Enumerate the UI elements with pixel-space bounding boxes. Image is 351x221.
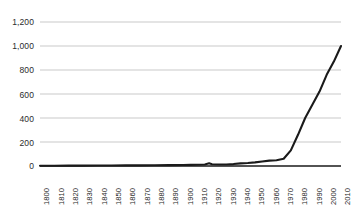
line-chart: 1,200 1,000 800 600 400 200 0 1800181018… [0, 0, 351, 221]
x-axis-tick-label: 1870 [144, 188, 152, 205]
x-axis-tick-label: 1840 [101, 188, 109, 205]
x-axis-tick-label: 1930 [230, 188, 238, 205]
x-axis-tick-label: 1900 [187, 188, 195, 205]
x-axis-tick-label: 1970 [287, 188, 295, 205]
x-axis-tick-label: 1960 [273, 188, 281, 205]
x-axis-tick-label: 2000 [330, 188, 338, 205]
x-axis-tick-label: 1820 [72, 188, 80, 205]
x-axis-tick-label: 1910 [201, 188, 209, 205]
x-axis-tick-label: 1830 [86, 188, 94, 205]
gridlines [40, 22, 341, 142]
x-axis-tick-label: 1950 [258, 188, 266, 205]
x-axis-tick-label: 1920 [215, 188, 223, 205]
x-axis-tick-label: 2010 [344, 188, 351, 205]
data-series-line [40, 46, 341, 166]
x-axis-tick-label: 1860 [129, 188, 137, 205]
x-axis-tick-label: 1890 [172, 188, 180, 205]
x-axis-tick-label: 1850 [115, 188, 123, 205]
x-axis-tick-label: 1810 [58, 188, 66, 205]
x-axis-tick-label: 1800 [43, 188, 51, 205]
x-axis-tick-label: 1940 [244, 188, 252, 205]
x-axis-tick-label: 1990 [316, 188, 324, 205]
x-axis-tick-label: 1880 [158, 188, 166, 205]
x-axis-tick-label: 1980 [301, 188, 309, 205]
